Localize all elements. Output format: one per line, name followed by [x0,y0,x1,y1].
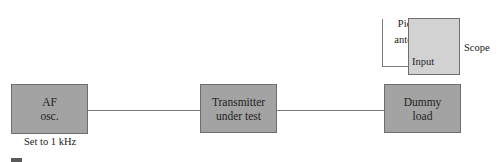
wire-transmitter-to-dummy-load [277,110,384,111]
af-oscillator-block: AF osc. [11,84,88,134]
af-oscillator-label-line1: AF [42,95,57,109]
pickup-antenna-wire-horizontal [382,66,408,67]
transmitter-label-line1: Transmitter [212,95,265,109]
transmitter-label-line2: under test [216,109,261,123]
af-oscillator-label-line2: osc. [40,109,58,123]
dummy-load-label-line1: Dummy [404,95,442,109]
scope-block: Input [408,18,460,75]
transmitter-block: Transmitter under test [200,84,277,133]
figure-marker-square [11,158,22,162]
dummy-load-label-line2: load [413,109,433,123]
dummy-load-block: Dummy load [384,84,461,133]
wire-af-to-transmitter [88,110,200,111]
pickup-antenna-wire-vertical [382,19,383,67]
scope-input-label: Input [412,55,434,69]
scope-label: Scope [464,42,490,54]
af-setting-label: Set to 1 kHz [24,136,76,148]
